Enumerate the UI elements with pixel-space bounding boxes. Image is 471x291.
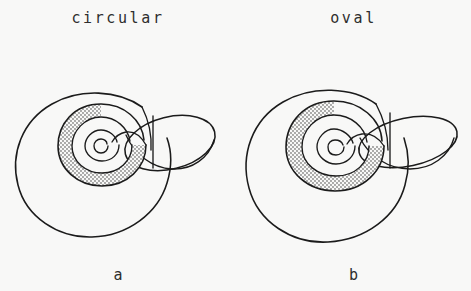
spiral-stipple-fill-b (278, 92, 393, 200)
shell-drawing-a (0, 42, 236, 247)
panel-b-top-label: oval (236, 8, 471, 28)
spiral-coil-4-a (94, 139, 108, 153)
spiral-coil-3-b (317, 129, 355, 164)
shell-upper-whorl-edge-a (142, 107, 151, 150)
panel-a-top-label: circular (0, 8, 236, 28)
shell-cross-section-figure: circular (0, 0, 471, 291)
spiral-coil-2-a (72, 117, 132, 173)
panel-oval-shell: oval (236, 0, 471, 291)
panel-circular-shell: circular (0, 0, 236, 291)
panel-b-bottom-label: b (236, 265, 471, 285)
spiral-stipple-fill-a (50, 97, 160, 197)
panel-a-bottom-label: a (0, 265, 236, 285)
spiral-coil-3-a (85, 130, 119, 161)
spiral-coil-4-b (328, 140, 344, 155)
shell-drawing-b (236, 42, 471, 247)
